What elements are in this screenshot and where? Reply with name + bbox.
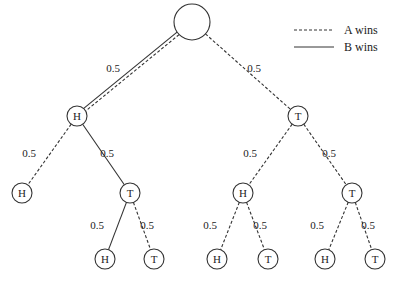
probability-label: 0.5 bbox=[253, 219, 267, 231]
outcome-node-h: H bbox=[12, 183, 32, 203]
probability-labels: 0.50.50.50.50.50.50.50.50.50.50.50.5 bbox=[22, 62, 375, 231]
outcome-node-t: T bbox=[365, 249, 385, 269]
probability-label: 0.5 bbox=[310, 219, 324, 231]
tree-edges bbox=[28, 32, 372, 250]
legend-label-b-wins: B wins bbox=[344, 40, 378, 54]
probability-label: 0.5 bbox=[322, 147, 336, 159]
probability-label: 0.5 bbox=[140, 219, 154, 231]
outcome-node-t: T bbox=[258, 249, 278, 269]
probability-label: 0.5 bbox=[247, 62, 261, 74]
probability-label: 0.5 bbox=[90, 219, 104, 231]
node-label: T bbox=[151, 253, 158, 265]
node-label: H bbox=[321, 253, 329, 265]
probability-label: 0.5 bbox=[100, 147, 114, 159]
outcome-node-t: T bbox=[144, 249, 164, 269]
outcome-node-t: T bbox=[288, 106, 308, 126]
outcome-node-h: H bbox=[315, 249, 335, 269]
legend: A wins B wins bbox=[294, 23, 378, 54]
edge-n12-n121 bbox=[109, 202, 127, 249]
outcome-node-h: H bbox=[207, 249, 227, 269]
edge-n22-n221 bbox=[329, 202, 348, 249]
tree-nodes: HTHTHTHTHTHT bbox=[12, 4, 385, 269]
node-label: T bbox=[265, 253, 272, 265]
node-label: H bbox=[73, 110, 81, 122]
edge-n21-n211 bbox=[221, 202, 240, 249]
probability-label: 0.5 bbox=[106, 62, 120, 74]
node-label: H bbox=[18, 187, 26, 199]
probability-label: 0.5 bbox=[203, 219, 217, 231]
node-label: H bbox=[239, 187, 247, 199]
probability-tree-diagram: 0.50.50.50.50.50.50.50.50.50.50.50.5 HTH… bbox=[0, 0, 396, 283]
probability-label: 0.5 bbox=[361, 219, 375, 231]
node-label: T bbox=[372, 253, 379, 265]
node-label: T bbox=[295, 110, 302, 122]
edge-root-n1 bbox=[84, 32, 179, 111]
outcome-node-h: H bbox=[67, 106, 87, 126]
outcome-node-h: H bbox=[95, 249, 115, 269]
probability-label: 0.5 bbox=[243, 147, 257, 159]
outcome-node-h: H bbox=[233, 183, 253, 203]
node-label: H bbox=[213, 253, 221, 265]
outcome-node-t: T bbox=[342, 183, 362, 203]
legend-label-a-wins: A wins bbox=[344, 23, 378, 37]
node-label: H bbox=[101, 253, 109, 265]
probability-label: 0.5 bbox=[22, 147, 36, 159]
outcome-node-t: T bbox=[120, 183, 140, 203]
root-node bbox=[174, 4, 210, 40]
node-label: T bbox=[349, 187, 356, 199]
node-label: T bbox=[127, 187, 134, 199]
